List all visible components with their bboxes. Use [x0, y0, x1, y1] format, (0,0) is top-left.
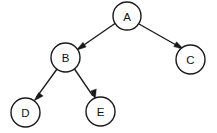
edge-a-to-c	[139, 24, 184, 50]
node-c[interactable]: C	[176, 45, 205, 74]
edge-a-to-c-line	[139, 24, 181, 48]
node-group: A B C D E	[11, 2, 205, 127]
node-d-label: D	[21, 107, 29, 119]
edge-b-to-d	[34, 69, 57, 101]
tree-diagram-canvas: A B C D E	[0, 0, 217, 133]
edge-b-to-e-line	[75, 69, 93, 96]
node-e-label: E	[97, 106, 105, 118]
edge-b-to-d-arrowhead	[34, 93, 43, 101]
edge-b-to-e	[75, 69, 97, 100]
node-a-label: A	[123, 11, 131, 23]
edge-a-to-b	[76, 24, 115, 51]
node-c-label: C	[186, 54, 194, 66]
node-a[interactable]: A	[113, 2, 141, 30]
node-e[interactable]: E	[86, 97, 115, 126]
tree-diagram-svg: A B C D E	[0, 0, 217, 133]
edge-a-to-b-line	[80, 24, 116, 49]
node-d[interactable]: D	[11, 98, 40, 127]
node-b-label: B	[62, 52, 70, 64]
node-b[interactable]: B	[51, 43, 80, 72]
